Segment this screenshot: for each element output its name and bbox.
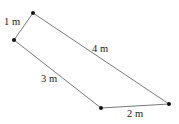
quadrilateral-diagram: 1 m 3 m 2 m 4 m (0, 0, 179, 124)
edge-4m (33, 13, 169, 104)
vertex-d (167, 102, 171, 106)
label-1m: 1 m (4, 16, 20, 27)
vertex-a (31, 11, 35, 15)
vertex-b (12, 38, 16, 42)
label-4m: 4 m (92, 43, 108, 54)
label-2m: 2 m (127, 108, 143, 119)
label-3m: 3 m (41, 73, 57, 84)
vertex-c (99, 106, 103, 110)
